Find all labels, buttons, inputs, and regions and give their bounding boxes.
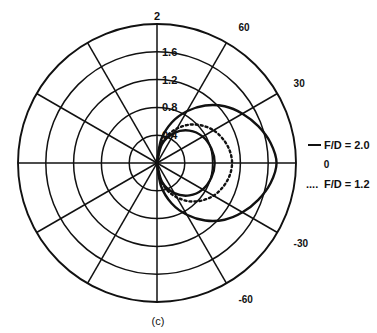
radial-tick-label-1.2: 1.2 <box>162 74 177 86</box>
radial-tick-label-0.8: 0.8 <box>162 101 177 113</box>
angle-tick-label-neg30: -30 <box>294 238 309 249</box>
polar-chart-figure: 0.40.81.21.62 60300-30-60 F/D = 2.0 ....… <box>0 0 377 333</box>
grid-spoke-300 <box>157 163 227 283</box>
angle-tick-label-neg60: -60 <box>238 294 253 305</box>
radial-tick-label-1.6: 1.6 <box>162 46 177 58</box>
legend-dotted-line-swatch: .... <box>306 178 318 190</box>
polar-chart-canvas: 0.40.81.21.62 60300-30-60 F/D = 2.0 ....… <box>0 0 377 333</box>
legend-label-fd-1-2: F/D = 1.2 <box>324 178 370 190</box>
angle-tick-label-30: 30 <box>294 78 306 89</box>
radial-tick-label-2: 2 <box>154 10 160 22</box>
angle-tick-label-60: 60 <box>238 22 250 33</box>
radial-tick-label-0.4: 0.4 <box>162 129 178 141</box>
grid-spoke-120 <box>88 43 158 163</box>
chart-legend: F/D = 2.0 .... F/D = 1.2 <box>306 139 370 190</box>
grid-spoke-240 <box>88 163 158 283</box>
grid-spoke-210 <box>37 163 157 233</box>
grid-spoke-150 <box>37 94 157 164</box>
angle-tick-label-0: 0 <box>324 159 330 170</box>
legend-label-fd-2-0: F/D = 2.0 <box>324 139 370 151</box>
figure-caption: (c) <box>152 315 165 327</box>
